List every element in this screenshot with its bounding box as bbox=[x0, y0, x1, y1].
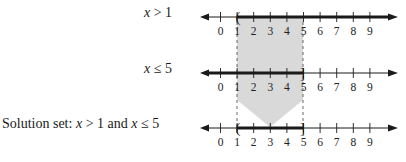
tick-label: 5 bbox=[301, 81, 307, 93]
tick-label: 4 bbox=[284, 81, 290, 93]
tick-label: 0 bbox=[218, 81, 224, 93]
tick-label: 9 bbox=[367, 25, 373, 37]
tick-label: 7 bbox=[334, 136, 340, 148]
tick-label: 6 bbox=[317, 81, 323, 93]
tick-label: 1 bbox=[234, 81, 240, 93]
tick-label: 2 bbox=[251, 81, 257, 93]
tick-label: 4 bbox=[284, 136, 290, 148]
tick-label: 6 bbox=[317, 25, 323, 37]
tick-label: 0 bbox=[218, 136, 224, 148]
tick-label: 8 bbox=[350, 81, 356, 93]
endpoint-open-paren: ( bbox=[236, 120, 241, 137]
tick-label: 1 bbox=[234, 25, 240, 37]
tick-label: 8 bbox=[350, 136, 356, 148]
tick-label: 5 bbox=[301, 136, 307, 148]
endpoint-bracket: ] bbox=[300, 65, 305, 81]
tick-label: 4 bbox=[284, 25, 290, 37]
tick-label: 7 bbox=[334, 81, 340, 93]
arrow-left-icon bbox=[200, 14, 209, 21]
tick-label: 2 bbox=[251, 25, 257, 37]
tick-label: 5 bbox=[301, 25, 307, 37]
tick-label: 3 bbox=[267, 81, 273, 93]
tick-label: 1 bbox=[234, 136, 240, 148]
tick-label: 7 bbox=[334, 25, 340, 37]
tick-label: 9 bbox=[367, 136, 373, 148]
tick-label: 6 bbox=[317, 136, 323, 148]
tick-label: 9 bbox=[367, 81, 373, 93]
tick-label: 2 bbox=[251, 136, 257, 148]
tick-label: 0 bbox=[218, 25, 224, 37]
endpoint-bracket: ( bbox=[236, 9, 241, 26]
tick-label: 3 bbox=[267, 136, 273, 148]
endpoint-closed-bracket: ] bbox=[300, 120, 305, 136]
tick-label: 8 bbox=[350, 25, 356, 37]
arrow-right-icon bbox=[388, 125, 398, 132]
arrow-right-icon bbox=[388, 70, 398, 77]
arrow-left-icon bbox=[200, 125, 209, 132]
number-lines-diagram: 0123456789(0123456789]0123456789(] bbox=[0, 0, 406, 162]
tick-label: 3 bbox=[267, 25, 273, 37]
